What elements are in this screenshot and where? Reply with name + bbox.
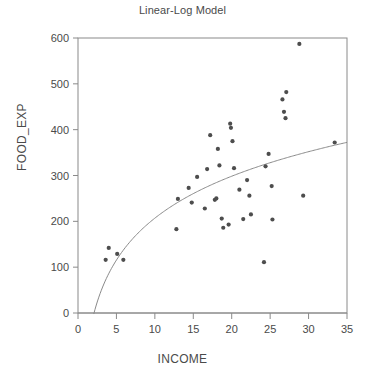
data-point xyxy=(262,260,266,264)
svg-text:200: 200 xyxy=(51,215,69,227)
data-point xyxy=(190,200,194,204)
plot-frame xyxy=(78,38,347,313)
svg-text:0: 0 xyxy=(75,323,81,335)
regression-curve xyxy=(94,142,347,314)
data-point xyxy=(217,163,221,167)
data-point xyxy=(267,152,271,156)
data-point xyxy=(270,217,274,221)
svg-text:30: 30 xyxy=(302,323,314,335)
data-point xyxy=(221,226,225,230)
svg-text:100: 100 xyxy=(51,261,69,273)
data-point xyxy=(241,217,245,221)
svg-text:35: 35 xyxy=(341,323,353,335)
data-point xyxy=(216,147,220,151)
data-point xyxy=(232,166,236,170)
data-point xyxy=(115,252,119,256)
svg-text:25: 25 xyxy=(264,323,276,335)
data-point xyxy=(107,246,111,250)
fit-curve xyxy=(94,142,347,314)
data-point xyxy=(203,206,207,210)
svg-text:5: 5 xyxy=(113,323,119,335)
data-point xyxy=(187,186,191,190)
data-point xyxy=(301,194,305,198)
svg-text:0: 0 xyxy=(63,307,69,319)
data-point xyxy=(214,196,218,200)
data-point xyxy=(227,222,231,226)
svg-text:300: 300 xyxy=(51,170,69,182)
x-axis-ticks: 05101520253035 xyxy=(75,313,353,335)
svg-text:20: 20 xyxy=(226,323,238,335)
data-point xyxy=(270,184,274,188)
data-point xyxy=(176,197,180,201)
data-point xyxy=(229,126,233,130)
data-point xyxy=(249,212,253,216)
data-point xyxy=(208,133,212,137)
data-point xyxy=(333,140,337,144)
data-point xyxy=(297,42,301,46)
scatter-chart: Linear-Log Model FOOD_EXP INCOME 0100200… xyxy=(0,0,365,380)
svg-text:400: 400 xyxy=(51,124,69,136)
data-point xyxy=(237,188,241,192)
y-axis-ticks: 0100200300400500600 xyxy=(51,32,78,319)
data-point xyxy=(220,216,224,220)
svg-text:500: 500 xyxy=(51,78,69,90)
data-point xyxy=(247,194,251,198)
svg-text:600: 600 xyxy=(51,32,69,44)
data-point xyxy=(283,116,287,120)
data-point xyxy=(263,164,267,168)
svg-text:15: 15 xyxy=(187,323,199,335)
data-point xyxy=(174,227,178,231)
data-point xyxy=(121,258,125,262)
data-point xyxy=(245,178,249,182)
data-point xyxy=(104,258,108,262)
data-point xyxy=(280,97,284,101)
data-point xyxy=(282,110,286,114)
svg-text:10: 10 xyxy=(149,323,161,335)
data-point xyxy=(230,139,234,143)
data-point xyxy=(284,90,288,94)
data-point xyxy=(228,122,232,126)
plot-area: 0100200300400500600 05101520253035 xyxy=(0,0,365,380)
data-point xyxy=(195,175,199,179)
data-point xyxy=(205,167,209,171)
